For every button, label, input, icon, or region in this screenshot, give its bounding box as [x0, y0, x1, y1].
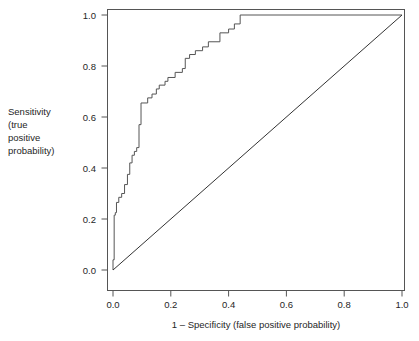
roc-chart-figure: 0.00.20.40.60.81.0 0.00.20.40.60.81.0 1 … — [0, 0, 419, 341]
chart-background — [0, 0, 419, 341]
x-tick-label: 1.0 — [395, 299, 408, 310]
y-axis-title-line-2: positive — [8, 132, 40, 143]
y-tick-label: 0.6 — [83, 112, 96, 123]
x-tick-label: 0.8 — [338, 299, 351, 310]
y-tick-label: 0.4 — [83, 163, 96, 174]
y-tick-label: 0.8 — [83, 61, 96, 72]
roc-plot-svg: 0.00.20.40.60.81.0 0.00.20.40.60.81.0 1 … — [0, 0, 419, 341]
x-tick-label: 0.0 — [106, 299, 119, 310]
y-axis-title-line-3: probability) — [8, 145, 54, 156]
y-tick-label: 0.2 — [83, 214, 96, 225]
x-tick-label: 0.2 — [164, 299, 177, 310]
x-tick-label: 0.6 — [280, 299, 293, 310]
y-axis-title-line-0: Sensitivity — [8, 106, 51, 117]
y-tick-label: 0.0 — [83, 265, 96, 276]
x-axis-title: 1 – Specificity (false positive probabil… — [172, 319, 340, 330]
y-axis-title-line-1: (true — [8, 119, 28, 130]
x-tick-label: 0.4 — [222, 299, 235, 310]
y-tick-label: 1.0 — [83, 10, 96, 21]
